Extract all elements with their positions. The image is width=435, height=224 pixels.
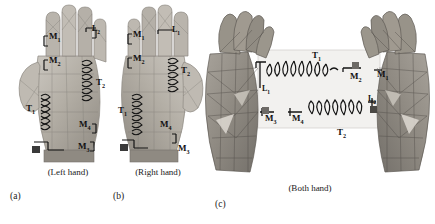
mass-block-l2-c	[370, 106, 377, 113]
label-b-l1: L1	[172, 26, 180, 36]
label-b-m3: M3	[178, 144, 190, 155]
figure-hand-models: M1 M2 L2 T2 T1 M4 M3 (Left hand) (a)	[0, 0, 435, 224]
panel-c-both-hands: T1 L1 M2 M1 L2 M3 M4 T2	[200, 2, 435, 177]
label-a-m3: M3	[78, 142, 90, 153]
label-c-m3: M3	[265, 114, 277, 125]
label-c-m2: M2	[350, 72, 362, 83]
fixture-block-a	[32, 146, 40, 153]
label-a-t1: T1	[26, 104, 35, 115]
label-a-m4: M4	[79, 120, 91, 131]
label-c-m4: M4	[292, 114, 304, 125]
label-c-t1: T1	[312, 51, 321, 62]
label-c-l1: L1	[262, 85, 270, 95]
fixture-block-b	[120, 144, 128, 151]
label-c-m1: M1	[377, 70, 389, 81]
mass-block-m2-c	[352, 62, 359, 69]
label-b-t1: T1	[118, 106, 127, 117]
sublabel-a: (a)	[10, 191, 21, 201]
label-a-m2: M2	[49, 56, 61, 67]
label-a-m1: M1	[49, 32, 61, 43]
label-b-m1: M1	[133, 30, 145, 41]
caption-both-hands: (Both hand)	[240, 183, 380, 193]
sublabel-b: (b)	[113, 191, 124, 201]
sublabel-c: (c)	[215, 199, 226, 209]
label-c-t2: T2	[337, 128, 346, 139]
both-hands-mesh	[200, 2, 435, 177]
label-c-l2: L2	[368, 95, 376, 105]
label-b-m4: M4	[160, 120, 172, 131]
label-b-t2: T2	[181, 66, 190, 77]
label-b-m2: M2	[133, 54, 145, 65]
